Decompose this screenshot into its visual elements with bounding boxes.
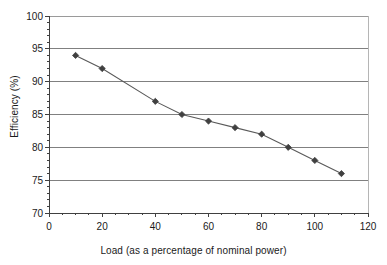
x-tick-label-120: 120	[353, 221, 383, 232]
y-tick-label-70: 70	[17, 208, 43, 219]
x-axis-title: Load (as a percentage of nominal power)	[0, 244, 387, 257]
x-tick-label-100: 100	[300, 221, 330, 232]
x-tick-label-40: 40	[140, 221, 170, 232]
y-tick-label-100: 100	[17, 11, 43, 22]
plot-area: 707580859095100020406080100120	[0, 0, 387, 265]
y-tick-label-90: 90	[17, 76, 43, 87]
x-tick-label-20: 20	[87, 221, 117, 232]
x-tick-label-0: 0	[34, 221, 64, 232]
y-tick-label-75: 75	[17, 175, 43, 186]
efficiency-vs-load-chart: Efficiency (%) 7075808590951000204060801…	[0, 0, 387, 265]
x-tick-label-60: 60	[194, 221, 224, 232]
y-tick-label-85: 85	[17, 109, 43, 120]
y-tick-label-80: 80	[17, 142, 43, 153]
x-tick-label-80: 80	[247, 221, 277, 232]
y-tick-label-95: 95	[17, 43, 43, 54]
